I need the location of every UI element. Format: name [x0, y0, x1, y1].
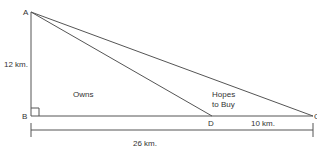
triangle-diagram: A B D C 12 km. Owns Hopes to Buy 10 km. …	[0, 0, 317, 151]
side-ab-length: 12 km.	[4, 60, 28, 69]
diagram-canvas: A B D C 12 km. Owns Hopes to Buy 10 km. …	[0, 0, 317, 151]
point-b-label: B	[22, 112, 27, 121]
hypotenuse-ac	[31, 12, 313, 116]
region-owns-label: Owns	[73, 90, 93, 99]
point-d-label: D	[208, 119, 214, 128]
region-hopes-label-2: to Buy	[212, 100, 235, 109]
region-hopes-label-1: Hopes	[212, 90, 235, 99]
base-total-length: 26 km.	[133, 139, 157, 148]
segment-dc-length: 10 km.	[251, 119, 275, 128]
right-angle-marker	[31, 108, 39, 116]
point-a-label: A	[23, 8, 29, 17]
segment-ad	[31, 12, 212, 116]
point-c-label: C	[314, 112, 317, 121]
